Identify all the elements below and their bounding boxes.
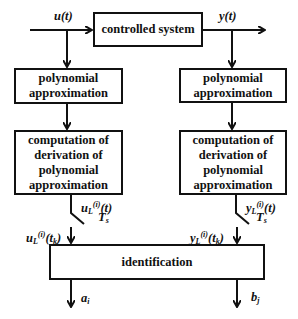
u-sampled-label: uL(i)(tk) (26, 228, 61, 248)
output-b-label: bj (251, 291, 259, 307)
left-polynomial-approximation-block: polynomial approximation (14, 68, 123, 104)
output-signal-label: y(t) (219, 10, 236, 23)
right-derivation-block: computation of derivation of polynomial … (179, 130, 287, 195)
identification-label: identification (122, 255, 193, 270)
identification-block: identification (49, 244, 265, 280)
left-polynomial-label: polynomial approximation (29, 71, 108, 101)
identification-block-diagram: controlled system polynomial approximati… (0, 0, 298, 319)
left-derivation-block: computation of derivation of polynomial … (14, 130, 123, 195)
controlled-system-label: controlled system (101, 22, 194, 37)
output-a-label: ai (81, 292, 89, 308)
input-signal-label: u(t) (54, 10, 73, 23)
y-sampled-label: yL(i)(tk) (190, 228, 224, 248)
right-derivation-label: computation of derivation of polynomial … (193, 133, 274, 193)
right-polynomial-label: polynomial approximation (194, 71, 273, 101)
controlled-system-block: controlled system (93, 12, 203, 47)
left-sampling-period-label: Ts (98, 211, 109, 227)
right-polynomial-approximation-block: polynomial approximation (179, 68, 287, 103)
right-sampling-period-label: Ts (256, 211, 267, 227)
left-derivation-label: computation of derivation of polynomial … (28, 133, 109, 193)
